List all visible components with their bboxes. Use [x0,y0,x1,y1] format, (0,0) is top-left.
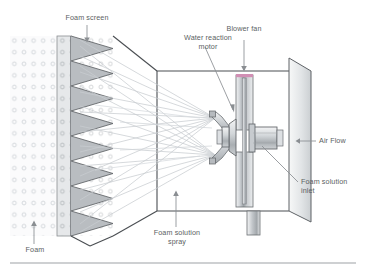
label-foam: Foam [16,246,54,255]
label-foam-solution-spray-line2: spray [146,238,208,247]
bottom-pipe-stub [247,211,260,235]
label-water-reaction-motor-line2: motor [176,43,240,52]
label-water-reaction-motor: Water reaction motor [176,34,240,51]
sawtooth-teeth [71,36,113,236]
label-foam-solution-inlet: Foam solution inlet [301,178,347,195]
blade-tip-accent [236,74,253,77]
label-air-flow: Air Flow [319,137,346,146]
label-foam-solution-spray: Foam solution spray [146,229,208,246]
label-foam-solution-inlet-line2: inlet [301,187,347,196]
nozzle-tip-upper [210,111,216,117]
nozzle-tip-lower [210,158,216,164]
fan-shaft [243,78,247,204]
diagram-canvas: Foam screen Blower fan Water reaction mo… [0,0,366,275]
foam-region [10,36,57,236]
label-foam-screen: Foam screen [59,14,115,23]
foam-screen-band [57,36,71,236]
